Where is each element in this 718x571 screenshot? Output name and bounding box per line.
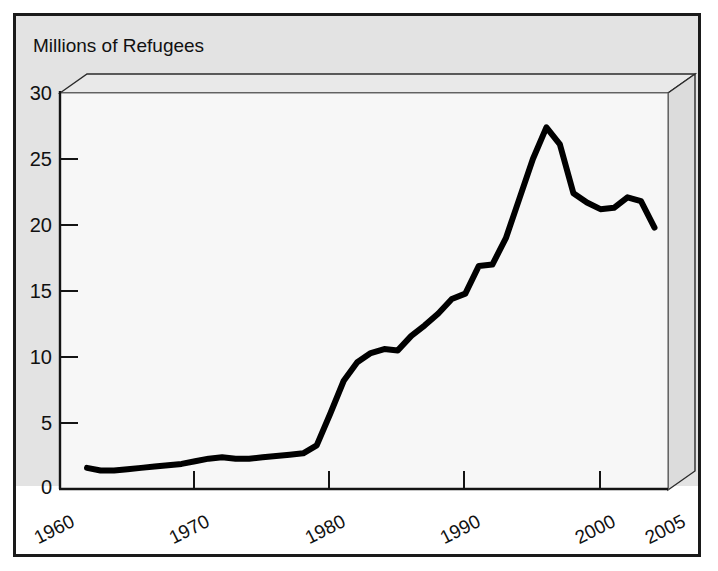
y-axis-tick-labels: 30 25 20 15 10 5 0	[30, 82, 52, 498]
chart-box-top-face	[60, 74, 695, 93]
page-title: Millions of Refugees	[33, 35, 204, 56]
x-tick-label-2000: 2000	[571, 510, 618, 548]
plot-front-face	[60, 93, 668, 490]
y-tick-label-10: 10	[30, 346, 52, 368]
y-tick-label-5: 5	[41, 412, 52, 434]
x-axis-tick-labels: 1960 1970 1980 1990 2000 2005	[30, 510, 688, 548]
chart-box-right-face	[668, 74, 695, 490]
y-tick-label-0: 0	[41, 476, 52, 498]
x-tick-label-1990: 1990	[436, 510, 483, 548]
x-tick-label-1960: 1960	[30, 510, 77, 548]
refugees-line-chart: Millions of Refugees 30 25 20 15 10 5 0	[0, 0, 718, 571]
y-tick-label-25: 25	[30, 148, 52, 170]
y-tick-label-30: 30	[30, 82, 52, 104]
figure-root: Millions of Refugees 30 25 20 15 10 5 0	[0, 0, 718, 571]
x-tick-label-1980: 1980	[301, 510, 348, 548]
x-tick-label-1970: 1970	[165, 510, 212, 548]
y-tick-label-20: 20	[30, 214, 52, 236]
x-tick-label-2005: 2005	[641, 510, 688, 548]
y-tick-label-15: 15	[30, 280, 52, 302]
